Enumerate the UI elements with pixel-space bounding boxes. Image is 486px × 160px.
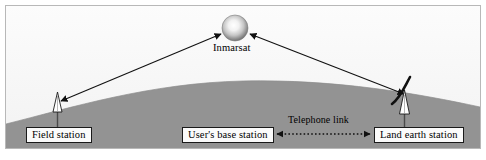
- satellite-link-diagram: Inmarsat Telephone link Field station Us…: [0, 0, 486, 160]
- field-station-label: Field station: [26, 127, 92, 143]
- users-base-station-label: User's base station: [182, 127, 274, 143]
- satellite-sphere-icon: [222, 15, 248, 41]
- telephone-link-label: Telephone link: [288, 114, 349, 126]
- land-earth-station-label: Land earth station: [374, 127, 464, 143]
- satellite-label: Inmarsat: [213, 42, 251, 54]
